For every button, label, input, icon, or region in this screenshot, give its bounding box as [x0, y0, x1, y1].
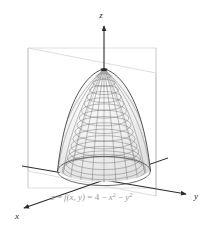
paraboloid-surface	[58, 68, 151, 186]
apex-point	[101, 68, 108, 71]
x-axis-label: x	[14, 211, 19, 221]
caption-args: (x, y)	[67, 192, 85, 202]
surface-equation-caption: z = f(x, y) = 4 − x2 − y2	[50, 192, 132, 202]
caption-eq2: = 4	[85, 192, 101, 202]
figure-container: z x y z = f(x, y) = 4 − x2 − y2	[0, 0, 209, 225]
z-axis-label: z	[98, 10, 103, 20]
y-axis-label: y	[193, 191, 198, 201]
caption-minus2: −	[116, 192, 126, 202]
caption-eq1: =	[55, 192, 65, 202]
caption-minus1: −	[101, 192, 108, 202]
caption-sup-2b: 2	[129, 192, 132, 198]
paraboloid-figure: z x y z = f(x, y) = 4 − x2 − y2	[0, 0, 209, 225]
